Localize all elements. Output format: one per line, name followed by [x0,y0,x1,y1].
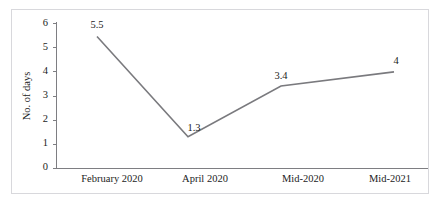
x-tick-label-april-2020: April 2020 [182,173,228,184]
y-tick-label-0: 0 [43,161,48,172]
y-tick-label-1: 1 [43,137,48,148]
data-label-2: 3.4 [274,70,288,81]
y-tick-label-6: 6 [43,17,48,28]
y-tick-label-3: 3 [43,89,48,100]
line-chart: 6 5 4 3 2 1 0 No. of days 5.5 1.3 3.4 4 … [0,0,440,210]
y-axis-ticks [53,24,57,169]
x-tick-label-mid-2021: Mid-2021 [369,173,411,184]
x-tick-label-february-2020: February 2020 [81,173,143,184]
y-tick-label-2: 2 [43,113,48,124]
data-label-0: 5.5 [90,19,103,30]
x-tick-label-mid-2020: Mid-2020 [282,173,324,184]
data-label-1: 1.3 [187,122,200,133]
chart-figure: 6 5 4 3 2 1 0 No. of days 5.5 1.3 3.4 4 … [0,0,440,210]
y-axis-title: No. of days [21,72,32,121]
data-label-3: 4 [393,55,399,66]
y-tick-label-5: 5 [43,41,48,52]
data-series-line [97,37,394,137]
y-tick-label-4: 4 [43,65,49,76]
